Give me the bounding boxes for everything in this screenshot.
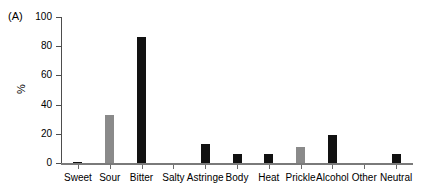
panel-label: (A) xyxy=(8,10,23,22)
x-axis-tick xyxy=(301,165,302,169)
x-axis-tick xyxy=(78,165,79,169)
bar-alcohol xyxy=(328,135,337,163)
bar-sweet xyxy=(73,162,82,164)
x-axis-tick xyxy=(332,165,333,169)
x-axis-tick xyxy=(173,165,174,169)
y-axis-tick-label: 60 xyxy=(26,70,52,80)
y-axis-tick xyxy=(56,17,61,18)
y-axis-tick xyxy=(56,46,61,47)
x-axis-tick xyxy=(142,165,143,169)
x-axis-tick xyxy=(237,165,238,169)
plot-area xyxy=(62,17,412,163)
bar-heat xyxy=(264,154,273,163)
y-axis-tick-label: 100 xyxy=(26,12,52,22)
x-axis-tick xyxy=(205,165,206,169)
y-axis-tick xyxy=(56,163,61,164)
bar-neutral xyxy=(392,154,401,163)
bar-prickle xyxy=(296,147,305,163)
y-axis-tick-label: 0 xyxy=(26,158,52,168)
x-axis-tick-label-neutral: Neutral xyxy=(366,172,423,183)
y-axis-tick-label: 80 xyxy=(26,41,52,51)
bar-bitter xyxy=(137,37,146,163)
y-axis-tick xyxy=(56,75,61,76)
y-axis-tick xyxy=(56,134,61,135)
x-axis-tick xyxy=(110,165,111,169)
x-axis-tick xyxy=(364,165,365,169)
y-axis-tick-label: 40 xyxy=(26,100,52,110)
y-axis-tick xyxy=(56,105,61,106)
bar-sour xyxy=(105,115,114,163)
x-axis-tick xyxy=(269,165,270,169)
bar-body xyxy=(233,154,242,163)
y-axis-tick-labels: 020406080100 xyxy=(22,0,52,192)
x-axis-tick xyxy=(396,165,397,169)
y-axis-tick-label: 20 xyxy=(26,129,52,139)
bar-chart-figure: (A) % 020406080100 SweetSourBitterSaltyA… xyxy=(0,0,423,192)
bar-astringe xyxy=(201,144,210,163)
